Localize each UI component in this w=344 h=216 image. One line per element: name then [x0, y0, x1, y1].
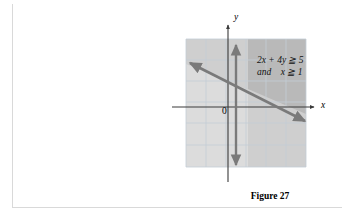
origin-label: 0	[222, 107, 227, 117]
inequality-graph	[0, 0, 344, 216]
x-axis-label: x	[321, 101, 325, 111]
inequality-line-2: and x ≧ 1	[257, 67, 304, 79]
inequality-annotation: 2x + 4y ≧ 5 and x ≧ 1	[257, 55, 304, 78]
figure-page: y x 0 2x + 4y ≧ 5 and x ≧ 1 Figure 27	[0, 0, 344, 216]
figure-caption: Figure 27	[240, 192, 300, 202]
graph-stage: y x 0 2x + 4y ≧ 5 and x ≧ 1	[0, 0, 344, 216]
inequality-line-1: 2x + 4y ≧ 5	[257, 55, 304, 67]
y-axis-label: y	[234, 13, 238, 23]
